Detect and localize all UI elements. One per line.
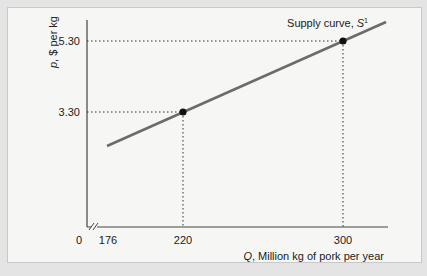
x-tick-220: 220 <box>174 234 192 246</box>
x-tick-176: 176 <box>99 234 117 246</box>
supply-chart: 5.30 3.30 0 176 220 300 Q, Million kg of… <box>0 0 427 276</box>
x-tick-0: 0 <box>76 234 82 246</box>
x-axis-title: Q, Million kg of pork per year <box>243 250 384 262</box>
y-tick-530: 5.30 <box>59 35 80 47</box>
point-300-530 <box>339 37 346 44</box>
x-tick-300: 300 <box>334 234 352 246</box>
y-axis-title: p, $ per kg <box>47 16 59 69</box>
point-220-330 <box>179 108 186 115</box>
y-tick-330: 3.30 <box>59 106 80 118</box>
supply-curve-label: Supply curve, S1 <box>287 17 368 29</box>
